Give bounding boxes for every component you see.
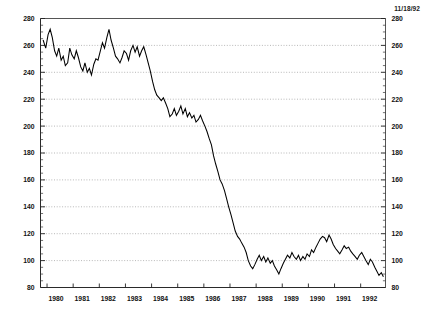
y-axis-right-label: 240	[392, 69, 404, 76]
x-axis-labels: 1980198119821983198419851986198719881989…	[48, 295, 377, 302]
x-axis-label: 1980	[48, 295, 63, 302]
x-axis-label: 1990	[310, 295, 325, 302]
y-axis-left-label: 180	[23, 149, 35, 156]
y-axis-left-label: 100	[23, 257, 35, 264]
y-axis-right-ticks	[381, 19, 386, 288]
x-axis-label: 1992	[362, 295, 377, 302]
y-axis-left-label: 220	[23, 96, 35, 103]
y-axis-right-labels: 80100120140160180200220240260280	[392, 15, 404, 291]
y-axis-right-label: 180	[392, 149, 404, 156]
x-axis-ticks	[47, 284, 361, 288]
y-axis-right-label: 260	[392, 42, 404, 49]
y-axis-right-label: 220	[392, 96, 404, 103]
y-axis-right-label: 280	[392, 15, 404, 22]
x-axis-label: 1985	[179, 295, 194, 302]
y-axis-right-label: 140	[392, 203, 404, 210]
y-axis-left-label: 80	[27, 284, 35, 291]
x-axis-label: 1981	[75, 295, 90, 302]
y-axis-right-label: 200	[392, 123, 404, 130]
x-axis-label: 1991	[336, 295, 351, 302]
y-axis-right-label: 120	[392, 230, 404, 237]
y-axis-left-label: 240	[23, 69, 35, 76]
x-axis-label: 1989	[284, 295, 299, 302]
y-axis-left-label: 140	[23, 203, 35, 210]
x-axis-label: 1982	[101, 295, 116, 302]
y-axis-left-labels: 80100120140160180200220240260280	[23, 15, 35, 291]
x-axis-label: 1986	[205, 295, 220, 302]
y-axis-right-label: 100	[392, 257, 404, 264]
line-chart: 80100120140160180200220240260280 8010012…	[0, 0, 426, 315]
y-axis-left-label: 280	[23, 15, 35, 22]
y-axis-right-label: 160	[392, 176, 404, 183]
y-axis-left-label: 260	[23, 42, 35, 49]
x-axis-label: 1988	[258, 295, 273, 302]
chart-container: 11/18/92 8010012014016018020022024026028…	[0, 0, 426, 315]
x-axis-label: 1983	[127, 295, 142, 302]
y-axis-left-label: 200	[23, 123, 35, 130]
y-axis-left-ticks	[41, 19, 46, 288]
y-axis-left-label: 160	[23, 176, 35, 183]
y-axis-left-label: 120	[23, 230, 35, 237]
y-axis-right-label: 80	[392, 284, 400, 291]
x-axis-label: 1984	[153, 295, 168, 302]
x-axis-label: 1987	[231, 295, 246, 302]
date-stamp: 11/18/92	[394, 5, 420, 12]
